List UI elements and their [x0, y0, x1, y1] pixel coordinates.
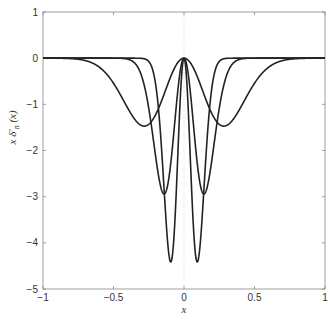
x-tick-label: 0	[181, 292, 187, 303]
y-axis-label: x δ′n (x)	[6, 110, 21, 145]
y-tick-label: −1	[27, 99, 39, 110]
x-tick-label: 1	[322, 292, 328, 303]
y-tick-label: 0	[32, 53, 38, 64]
y-tick-label: −4	[27, 237, 39, 248]
y-tick-label: −3	[27, 191, 39, 202]
curve-n1	[43, 58, 325, 126]
y-tick-label: −2	[27, 145, 39, 156]
y-tick-label: 1	[32, 7, 38, 18]
x-axis-label: x	[181, 303, 187, 315]
chart: −1−0.500.5110−1−2−3−4−5xx δ′n (x)	[0, 0, 336, 320]
x-tick-label: 0.5	[248, 292, 262, 303]
x-tick-label: −0.5	[104, 292, 124, 303]
plot-area: −1−0.500.5110−1−2−3−4−5xx δ′n (x)	[0, 0, 336, 320]
y-tick-label: −5	[27, 284, 39, 295]
x-tick-label: −1	[37, 292, 49, 303]
